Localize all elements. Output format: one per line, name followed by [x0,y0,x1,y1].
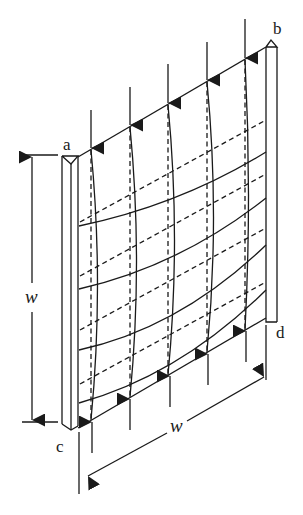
bottom-edge [78,318,266,428]
right-stiffener [266,40,277,322]
diagram-graphic [0,0,303,515]
horizontal-dimension [79,325,266,494]
vertical-dimension-label: w [23,287,40,306]
corner-label-c: c [56,438,64,455]
corner-label-d: d [276,324,285,341]
buckled-mode-shape [79,60,266,420]
undeformed-grid [80,60,266,420]
top-load-arrows [91,19,245,148]
top-edge [78,47,266,157]
plate-buckling-diagram: a b c d w w [0,0,303,515]
corner-label-b: b [273,20,282,37]
horizontal-dimension-label: w [168,416,185,435]
left-stiffener [62,156,78,430]
corner-label-a: a [63,136,71,153]
